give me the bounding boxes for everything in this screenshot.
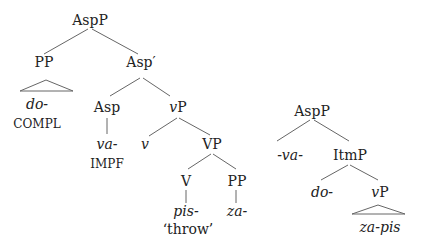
leaf-va-spec: -va- xyxy=(277,148,303,162)
node-vp: VP xyxy=(202,137,222,151)
node-itmp: ItmP xyxy=(333,148,367,162)
gloss-impf: IMPF xyxy=(90,158,123,170)
node-aspp-root: AspP xyxy=(72,13,108,27)
leaf-za: za- xyxy=(227,204,247,218)
gloss-compl: COMPL xyxy=(13,118,60,130)
leaf-za-pis: za-pis xyxy=(359,220,400,234)
leaf-do: do- xyxy=(26,97,48,111)
gloss-throw: ‘throw’ xyxy=(163,222,214,236)
node-asp-bar: Asp′ xyxy=(126,55,155,69)
syntax-tree-diagram: AspP PP do- COMPL Asp′ Asp va- IMPF vP v… xyxy=(0,0,424,246)
leaf-va: va- xyxy=(97,137,118,151)
node-little-vp-2: vP xyxy=(371,185,388,199)
node-aspp-root-2: AspP xyxy=(294,104,330,118)
node-pp: PP xyxy=(35,55,54,69)
node-pp2: PP xyxy=(228,174,247,188)
node-little-v: v xyxy=(141,137,149,151)
tree-edges xyxy=(0,0,424,246)
leaf-pis: pis- xyxy=(173,204,198,218)
node-asp: Asp xyxy=(94,100,120,114)
leaf-do-2: do- xyxy=(311,185,333,199)
node-little-vp: vP xyxy=(169,100,186,114)
node-v: V xyxy=(181,174,191,188)
